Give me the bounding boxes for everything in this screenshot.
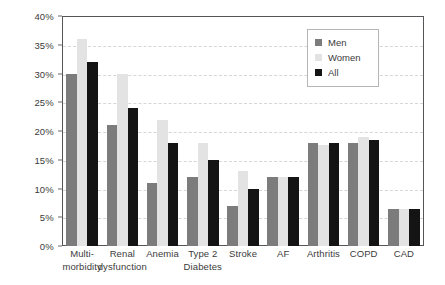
bar [168, 143, 179, 247]
y-axis-tick-label: 25% [34, 97, 54, 108]
bar-group [66, 16, 98, 246]
bar [248, 189, 259, 247]
bar [308, 143, 319, 247]
x-axis-labels: Multi-morbidityRenaldysfunctionAnemiaTyp… [62, 248, 424, 285]
bar-group [267, 16, 299, 246]
legend-swatch-icon [315, 39, 322, 46]
bar [77, 39, 88, 246]
bar-chart: 0%5%10%15%20%25%30%35%40% Multi-morbidit… [0, 0, 445, 285]
bar [117, 74, 128, 247]
bar [87, 62, 98, 246]
bar [147, 183, 158, 246]
legend-swatch-icon [315, 69, 322, 76]
y-axis-tick-label: 15% [34, 154, 54, 165]
bar [388, 209, 399, 246]
legend-label: Women [328, 52, 361, 63]
bar [157, 120, 168, 247]
bar-group [227, 16, 259, 246]
bar [409, 209, 420, 246]
legend-item: All [315, 65, 371, 80]
chart-legend: MenWomenAll [307, 29, 379, 87]
bar [227, 206, 238, 246]
bar [399, 209, 410, 246]
bar [318, 145, 329, 246]
bar [238, 171, 249, 246]
legend-swatch-icon [315, 54, 322, 61]
bar [358, 137, 369, 246]
bar [278, 177, 289, 246]
bar [66, 74, 77, 247]
bar-group [388, 16, 420, 246]
x-axis-label-line: Diabetes [177, 261, 229, 274]
bar [369, 140, 380, 246]
bar [208, 160, 219, 246]
y-axis-tick-label: 20% [34, 126, 54, 137]
bar [198, 143, 209, 247]
bar [107, 125, 118, 246]
x-axis-label-line: dysfunction [96, 261, 148, 274]
bar [288, 177, 299, 246]
y-axis-tick-label: 30% [34, 68, 54, 79]
legend-item: Women [315, 50, 371, 65]
bar [348, 143, 359, 247]
legend-label: All [328, 67, 339, 78]
x-axis-label: CAD [378, 248, 430, 261]
bar [187, 177, 198, 246]
bar-group [107, 16, 139, 246]
y-axis-tick-label: 10% [34, 183, 54, 194]
bar [329, 143, 340, 247]
y-axis-tick-label: 0% [40, 241, 54, 252]
legend-label: Men [328, 37, 346, 48]
y-axis-tick-label: 5% [40, 212, 54, 223]
y-axis: 0%5%10%15%20%25%30%35%40% [0, 0, 62, 262]
bar [267, 177, 278, 246]
x-axis-label-line: CAD [378, 248, 430, 261]
y-axis-tick-label: 35% [34, 39, 54, 50]
bar-group [187, 16, 219, 246]
bar [128, 108, 139, 246]
bar-group [147, 16, 179, 246]
y-axis-tick-label: 40% [34, 11, 54, 22]
legend-item: Men [315, 35, 371, 50]
